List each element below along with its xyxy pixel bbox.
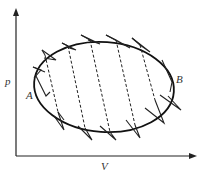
y-axis-arrow-icon <box>13 8 19 16</box>
isotherms-zigzag <box>33 35 181 140</box>
point-a-label: A <box>26 90 33 101</box>
point-b-label: B <box>176 74 183 85</box>
axes <box>13 8 197 159</box>
x-axis-label: V <box>101 161 108 172</box>
x-axis-arrow-icon <box>189 153 197 159</box>
y-axis-label: p <box>5 76 11 87</box>
adiabats-dashed <box>45 40 155 132</box>
cycle-ellipse <box>31 37 177 137</box>
